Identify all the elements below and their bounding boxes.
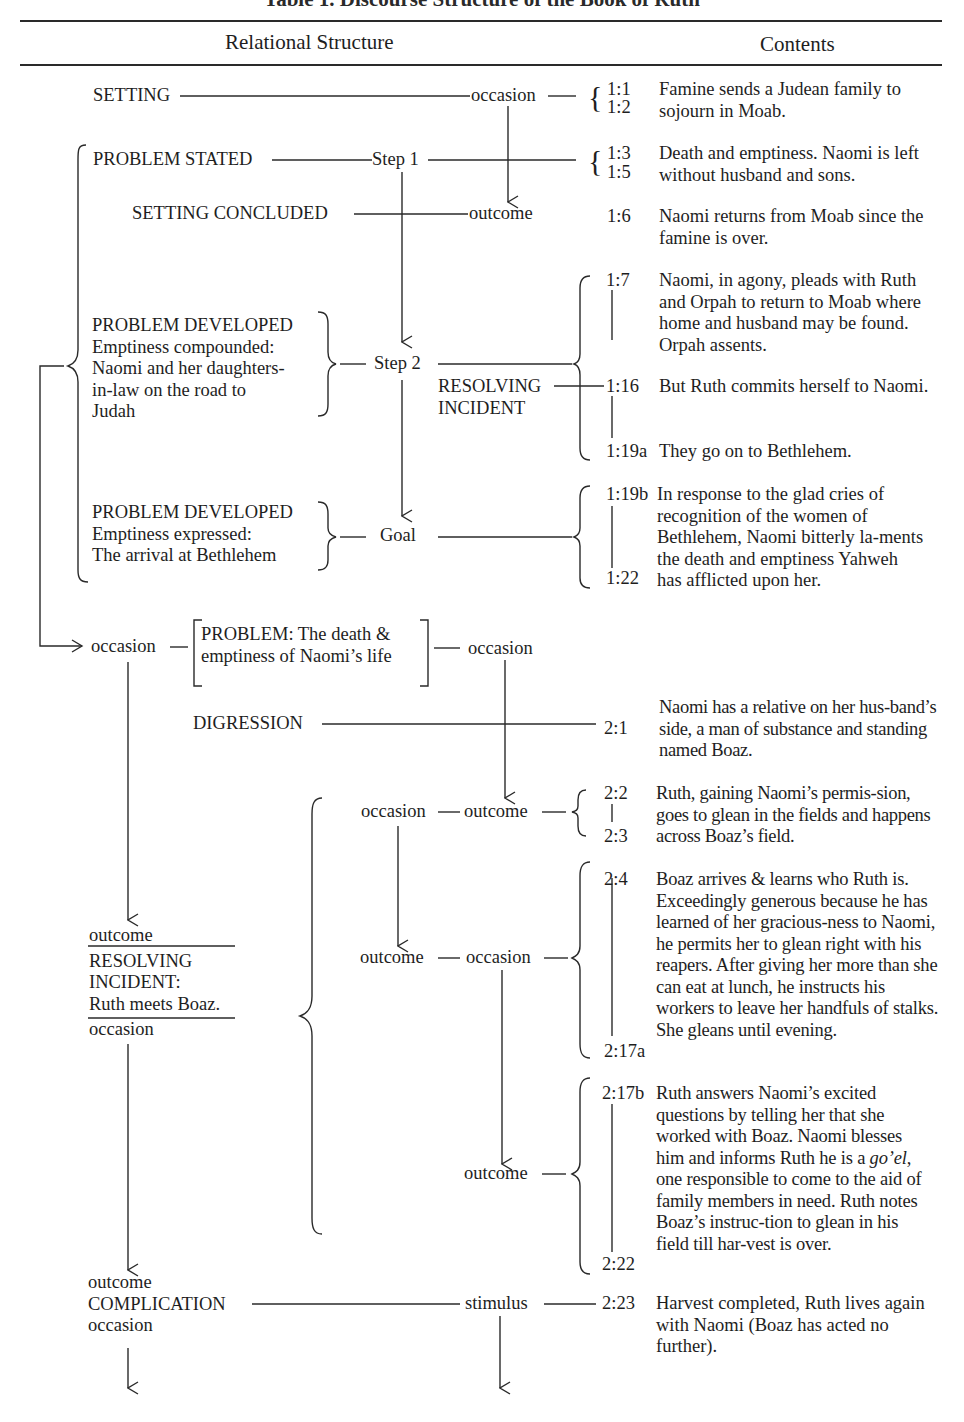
resolving-incident-2-line: INCIDENT: <box>89 972 220 994</box>
resolving-incident-2-line: Ruth meets Boaz. <box>89 994 220 1016</box>
verse-ref: 2:4 <box>604 869 628 891</box>
complication-top: outcome <box>88 1272 226 1294</box>
goel-term: goʼel <box>870 1148 907 1168</box>
verse-ref: 1:22 <box>606 568 639 590</box>
goal-label: Goal <box>380 525 416 547</box>
problem-box: PROBLEM: The death & emptiness of Naomi’… <box>201 624 392 667</box>
content-text: Boaz arrives & learns who Ruth is. Excee… <box>656 869 946 1041</box>
resolving-incident-2-line: RESOLVING <box>89 951 220 973</box>
verse-ref: 1:5 <box>607 162 631 184</box>
setting-label: SETTING <box>93 85 170 107</box>
setting-concluded-relation: outcome <box>469 203 533 225</box>
content-text: Naomi returns from Moab since the famine… <box>659 206 944 249</box>
setting-relation: occasion <box>471 85 536 107</box>
complication-relation: stimulus <box>465 1293 528 1315</box>
resolving-incident-2: outcome RESOLVING INCIDENT: Ruth meets B… <box>89 925 220 1041</box>
problem-developed-2-line: The arrival at Bethlehem <box>92 545 293 567</box>
content-text: Naomi has a relative on her hus-band’s s… <box>659 697 944 762</box>
setting-concluded-label: SETTING CONCLUDED <box>132 203 328 225</box>
digression-label: DIGRESSION <box>193 713 303 735</box>
problem-developed-1-line: Naomi and her daughters- <box>92 358 293 380</box>
resolving-incident-1-line: INCIDENT <box>438 398 541 420</box>
content-text: Death and emptiness. Naomi is left witho… <box>659 143 944 186</box>
problem-developed-1-line: in-law on the road to <box>92 380 293 402</box>
complication: outcome COMPLICATION occasion <box>88 1272 226 1337</box>
content-text-part: Ruth answers Naomi’s excited questions b… <box>656 1083 902 1168</box>
verse-ref: 1:19b <box>606 484 648 506</box>
verse-ref: 1:7 <box>606 270 630 292</box>
ch2-row2-left: outcome <box>360 947 424 969</box>
ch2-row1-right: outcome <box>464 801 528 823</box>
content-text: Ruth answers Naomi’s excited questions b… <box>656 1083 932 1255</box>
resolving-incident-1: RESOLVING INCIDENT <box>438 376 541 419</box>
content-text: They go on to Bethlehem. <box>659 441 944 463</box>
problem-developed-1-line: Judah <box>92 401 293 423</box>
problem-developed-2-line: Emptiness expressed: <box>92 524 293 546</box>
verse-ref: 1:6 <box>607 206 631 228</box>
resolving-incident-2-bottom: occasion <box>89 1019 220 1041</box>
ch2-row3-right: outcome <box>464 1163 528 1185</box>
brace-icon: { <box>588 146 602 176</box>
verse-ref: 1:19a <box>606 441 647 463</box>
content-text: Harvest completed, Ruth lives again with… <box>656 1293 926 1358</box>
problem-box-line: emptiness of Naomi’s life <box>201 646 392 668</box>
problem-stated-label: PROBLEM STATED <box>93 149 252 171</box>
complication-title: COMPLICATION <box>88 1294 226 1316</box>
resolving-incident-2-top: outcome <box>89 925 220 947</box>
problem-developed-2: PROBLEM DEVELOPED Emptiness expressed: T… <box>92 502 293 567</box>
ch2-row2-right: occasion <box>466 947 531 969</box>
content-text: In response to the glad cries of recogni… <box>657 484 927 592</box>
content-text: But Ruth commits herself to Naomi. <box>659 376 944 398</box>
verse-ref: 2:17a <box>604 1041 645 1063</box>
step2-label: Step 2 <box>374 353 421 375</box>
verse-ref: 2:1 <box>604 718 628 740</box>
problem-developed-2-title: PROBLEM DEVELOPED <box>92 502 293 524</box>
verse-ref: 1:2 <box>607 97 631 119</box>
verse-ref: 2:22 <box>602 1254 635 1276</box>
content-text: Ruth, gaining Naomi’s permis-sion, goes … <box>656 783 946 848</box>
complication-bottom: occasion <box>88 1315 226 1337</box>
problem-developed-1: PROBLEM DEVELOPED Emptiness compounded: … <box>92 315 293 423</box>
problem-developed-1-line: Emptiness compounded: <box>92 337 293 359</box>
verse-ref: 2:17b <box>602 1083 644 1105</box>
verse-ref: 2:23 <box>602 1293 635 1315</box>
problem-left-relation: occasion <box>91 636 156 658</box>
problem-developed-1-title: PROBLEM DEVELOPED <box>92 315 293 337</box>
content-text: Naomi, in agony, pleads with Ruth and Or… <box>659 270 944 356</box>
verse-ref: 2:3 <box>604 826 628 848</box>
resolving-incident-1-line: RESOLVING <box>438 376 541 398</box>
content-text: Famine sends a Judean family to sojourn … <box>659 79 944 122</box>
problem-right-relation: occasion <box>468 638 533 660</box>
verse-ref: 2:2 <box>604 783 628 805</box>
verse-ref: 1:16 <box>606 376 639 398</box>
problem-box-line: PROBLEM: The death & <box>201 624 392 646</box>
brace-icon: { <box>588 82 602 112</box>
ch2-row1-left: occasion <box>361 801 426 823</box>
step1-label: Step 1 <box>372 149 419 171</box>
